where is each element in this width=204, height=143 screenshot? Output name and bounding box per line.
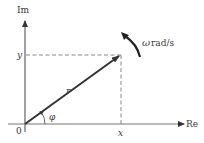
rotation-arrow-icon — [121, 32, 140, 57]
vector-magnitude-label: r — [66, 86, 71, 96]
origin-label: 0 — [16, 126, 22, 136]
imaginary-axis-label: Im — [17, 5, 30, 15]
phasor-diagram: Im Re 0 y x r φ ω rad/s — [0, 0, 204, 143]
y-projection-label: y — [16, 50, 23, 60]
x-projection-label: x — [118, 128, 123, 138]
real-axis-label: Re — [186, 119, 198, 129]
phasor-vector — [25, 56, 119, 124]
angle-phi-label: φ — [49, 112, 56, 122]
rotation-omega-symbol: ω — [142, 37, 150, 48]
angle-arc — [40, 111, 46, 124]
rotation-units-label: rad/s — [151, 38, 174, 48]
